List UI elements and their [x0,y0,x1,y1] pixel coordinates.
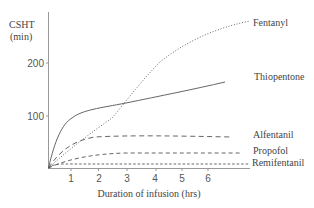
label-alfentanil: Alfentanil [253,129,294,140]
propofol-curve [49,153,242,168]
fentanyl-curve [49,21,251,168]
thiopentone-curve [49,82,226,168]
x-tick-label-3: 3 [124,173,130,184]
remifentanil-curve [49,164,251,168]
alfentanil-curve [49,136,233,168]
label-thiopentone: Thiopentone [254,71,305,82]
x-tick-label-2: 2 [96,173,102,184]
y-tick-label-100: 100 [27,111,44,122]
y-axis-label-line2: (min) [10,31,32,43]
x-tick-label-5: 5 [179,173,185,184]
x-axis-label: Duration of infusion (hrs) [97,188,200,200]
label-propofol: Propofol [253,145,288,156]
x-tick-label-1: 1 [68,173,74,184]
y-axis-label-line1: CSHT [9,19,35,30]
csht-chart: CSHT (min) 200 100 1 2 3 4 5 6 Duration … [0,0,314,208]
y-tick-label-200: 200 [27,58,44,69]
x-tick-label-4: 4 [152,173,158,184]
label-remifentanil: Remifentanil [252,157,304,168]
x-tick-label-6: 6 [205,173,211,184]
label-fentanyl: Fentanyl [253,17,288,28]
